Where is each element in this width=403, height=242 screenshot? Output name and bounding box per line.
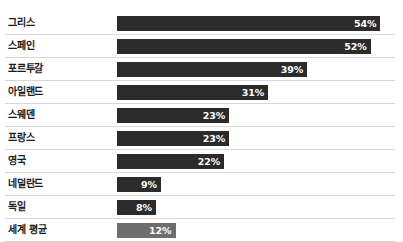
bar: 22% xyxy=(117,154,224,169)
bar: 12% xyxy=(117,223,176,238)
bar-track: 12% xyxy=(117,219,395,242)
bar-row-label: 프랑스 xyxy=(8,127,34,150)
bar-row: 영국22% xyxy=(0,150,403,173)
bar-row: 네덜란드9% xyxy=(0,173,403,196)
bar: 31% xyxy=(117,85,268,100)
bar-value-label: 12% xyxy=(149,226,171,236)
bar-value-label: 23% xyxy=(203,111,225,121)
bar-chart-rows: 그리스54%스페인52%포르투갈39%아일랜드31%스웨덴23%프랑스23%영국… xyxy=(0,12,403,242)
bar-row-label: 스웨덴 xyxy=(8,104,34,127)
bar-value-label: 9% xyxy=(141,180,157,190)
bar-row-label: 영국 xyxy=(8,150,26,173)
bar-track: 23% xyxy=(117,127,395,150)
bar-row: 포르투갈39% xyxy=(0,58,403,81)
bar-value-label: 52% xyxy=(344,42,366,52)
bar-row-label: 아일랜드 xyxy=(8,81,43,104)
bar-value-label: 8% xyxy=(136,203,152,213)
bar-chart: 그리스54%스페인52%포르투갈39%아일랜드31%스웨덴23%프랑스23%영국… xyxy=(0,0,403,242)
bar-row: 스페인52% xyxy=(0,35,403,58)
bar: 39% xyxy=(117,62,307,77)
bar-value-label: 39% xyxy=(281,65,303,75)
bar: 54% xyxy=(117,16,380,31)
bar: 23% xyxy=(117,108,229,123)
bar-track: 9% xyxy=(117,173,395,196)
bar-track: 31% xyxy=(117,81,395,104)
bar-row: 독일8% xyxy=(0,196,403,219)
bar-row-label: 그리스 xyxy=(8,12,34,35)
bar-row-label: 독일 xyxy=(8,196,26,219)
bar-value-label: 54% xyxy=(354,19,376,29)
bar-track: 39% xyxy=(117,58,395,81)
bar-row: 세계 평균12% xyxy=(0,219,403,242)
bar-value-label: 31% xyxy=(242,88,264,98)
bar-track: 8% xyxy=(117,196,395,219)
bar-row-label: 네덜란드 xyxy=(8,173,43,196)
bar-row: 그리스54% xyxy=(0,12,403,35)
bar-row-label: 스페인 xyxy=(8,35,34,58)
bar: 9% xyxy=(117,177,161,192)
bar-value-label: 22% xyxy=(198,157,220,167)
bar: 8% xyxy=(117,200,156,215)
bar-value-label: 23% xyxy=(203,134,225,144)
bar: 52% xyxy=(117,39,371,54)
bar-row-label: 포르투갈 xyxy=(8,58,43,81)
bar-row: 프랑스23% xyxy=(0,127,403,150)
bar-track: 22% xyxy=(117,150,395,173)
bar-track: 52% xyxy=(117,35,395,58)
bar-row: 아일랜드31% xyxy=(0,81,403,104)
bar: 23% xyxy=(117,131,229,146)
bar-track: 54% xyxy=(117,12,395,35)
bar-row: 스웨덴23% xyxy=(0,104,403,127)
bar-track: 23% xyxy=(117,104,395,127)
bar-row-label: 세계 평균 xyxy=(8,219,46,242)
